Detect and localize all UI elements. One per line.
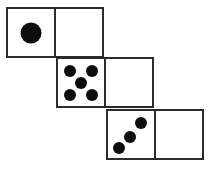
die-face-five: [56, 57, 106, 108]
pip-bottom-right: [86, 89, 98, 101]
pip-top-right: [135, 117, 147, 129]
dice-row-bottom: [106, 109, 204, 160]
die-face-blank-bottom: [154, 109, 204, 160]
dice-row-middle: [56, 57, 154, 108]
pip-top-right: [86, 65, 98, 77]
die-face-blank-top: [54, 7, 104, 58]
pip-top-left: [64, 65, 76, 77]
pip-center: [124, 131, 136, 143]
die-face-one: [6, 7, 56, 58]
pip-center: [21, 22, 42, 43]
dice-row-top: [6, 7, 104, 58]
die-face-three: [106, 109, 156, 160]
die-face-blank-middle: [104, 57, 154, 108]
pip-bottom-left: [113, 142, 125, 154]
dice-net-diagram: [0, 0, 212, 170]
pip-bottom-left: [64, 89, 76, 101]
pip-center: [75, 77, 87, 89]
